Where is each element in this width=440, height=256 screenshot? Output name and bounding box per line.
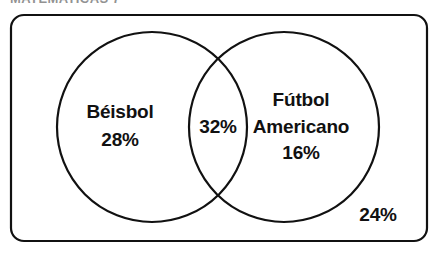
value-left-only: 28%: [101, 129, 138, 151]
set-label-left: Béisbol: [86, 101, 153, 123]
set-label-right-line2: Americano: [253, 116, 349, 138]
value-intersection: 32%: [199, 116, 236, 138]
set-label-right-line1: Fútbol: [273, 89, 330, 111]
venn-diagram-figure: MATEMATICAS 7 Béisbol 28% 32% Fútbol Ame…: [0, 0, 440, 256]
value-right-only: 16%: [282, 142, 319, 164]
value-outside: 24%: [359, 204, 396, 226]
